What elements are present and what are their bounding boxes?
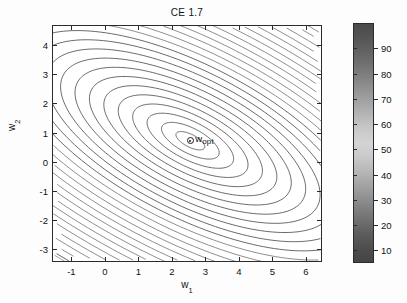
x-axis-label-main: w — [181, 279, 188, 290]
y-tick-label: 4 — [28, 39, 48, 50]
contour-line — [194, 26, 316, 92]
x-axis-label: w1 — [52, 279, 322, 293]
y-tick-label: 0 — [28, 156, 48, 167]
colorbar-tick-mark — [374, 200, 378, 201]
colorbar-tick-mark — [374, 99, 378, 100]
contour-line — [57, 224, 120, 260]
colorbar-tick-label: 80 — [381, 68, 392, 79]
contour-line — [53, 40, 320, 151]
y-tick-label: -2 — [28, 215, 48, 226]
colorbar-tick-mark — [374, 175, 378, 176]
x-tick-label: 2 — [160, 266, 184, 277]
x-tick-label: 3 — [193, 266, 217, 277]
y-tick-label: 3 — [28, 69, 48, 80]
y-axis-label: w2 — [6, 120, 20, 131]
colorbar-tick-mark — [353, 74, 357, 75]
colorbar-tick-mark — [374, 250, 378, 251]
colorbar-tick-mark — [353, 99, 357, 100]
colorbar-tick-mark — [374, 225, 378, 226]
x-tick-label: 4 — [227, 266, 251, 277]
colorbar-tick-label: 40 — [381, 169, 392, 180]
contour-lines — [53, 26, 321, 261]
colorbar-tick-label: 50 — [381, 144, 392, 155]
colorbar-tick-mark — [353, 200, 357, 201]
colorbar-tick-mark — [374, 48, 378, 49]
contour-line — [61, 234, 105, 259]
colorbar-tick-mark — [353, 250, 357, 251]
x-tick-label: 1 — [126, 266, 150, 277]
colorbar-tick-mark — [374, 149, 378, 150]
plot-axes-area — [52, 25, 322, 262]
colorbar-tick-mark — [353, 225, 357, 226]
y-axis-label-sub: 2 — [13, 120, 22, 124]
contour-line — [164, 26, 321, 111]
x-tick-label: 5 — [260, 266, 284, 277]
contour-line — [272, 27, 314, 51]
colorbar-tick-label: 20 — [381, 220, 392, 231]
contour-plot-figure: CE 1.7 -1012345643210-1-2-3 w1 w2 908070… — [0, 0, 407, 303]
x-axis-label-sub: 1 — [189, 286, 193, 295]
colorbar-tick-label: 90 — [381, 43, 392, 54]
w-opt-label: wopt — [195, 134, 214, 144]
y-tick-label: 1 — [28, 127, 48, 138]
x-tick-label: 6 — [294, 266, 318, 277]
contour-line — [58, 201, 167, 261]
contour-line — [53, 49, 321, 169]
colorbar-tick-mark — [353, 124, 357, 125]
colorbar-tick-label: 10 — [381, 245, 392, 256]
colorbar-tick-label: 60 — [381, 119, 392, 130]
colorbar-tick-label: 70 — [381, 93, 392, 104]
colorbar-tick-label: 30 — [381, 194, 392, 205]
page-title: CE 1.7 — [52, 7, 322, 18]
contour-line — [105, 26, 321, 132]
w-opt-label-sub: opt — [202, 137, 214, 146]
y-tick-label: -1 — [28, 185, 48, 196]
contour-line — [62, 249, 74, 256]
contour-line — [233, 28, 321, 80]
colorbar-tick-mark — [374, 74, 378, 75]
contour-line — [258, 27, 318, 62]
colorbar-tick-mark — [374, 124, 378, 125]
y-axis-label-main: w — [6, 124, 17, 131]
x-tick-label: 0 — [93, 266, 117, 277]
colorbar-tick-mark — [353, 175, 357, 176]
contour-line — [307, 26, 319, 32]
y-tick-label: 2 — [28, 98, 48, 109]
contour-line — [302, 30, 313, 37]
x-tick-label: -1 — [59, 266, 83, 277]
colorbar — [353, 23, 374, 263]
colorbar-tick-mark — [353, 48, 357, 49]
colorbar-tick-mark — [353, 149, 357, 150]
y-tick-label: -3 — [28, 244, 48, 255]
